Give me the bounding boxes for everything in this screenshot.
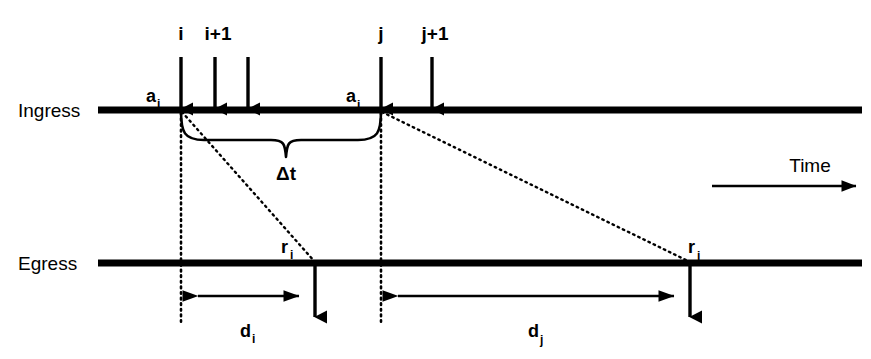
egress-axis-label: Egress [18, 253, 77, 274]
svg-text:j: j [696, 249, 700, 263]
departure-time-label-r-j: r j [688, 237, 700, 263]
ingress-axis-label: Ingress [18, 100, 80, 121]
timing-diagram: i i+1 j j+1 Ingress Egress a i a j r i r… [0, 0, 871, 359]
departure-time-label-r-i: r i [281, 237, 293, 262]
svg-text:i: i [290, 248, 293, 262]
packet-index-i: i [178, 23, 183, 44]
interarrival-label: Δt [276, 163, 297, 184]
packet-index-i-plus-1: i+1 [205, 23, 232, 44]
svg-text:i: i [157, 97, 160, 111]
service-line-j [382, 112, 690, 262]
packet-index-j: j [377, 23, 383, 44]
svg-text:a: a [346, 86, 357, 106]
svg-text:d: d [528, 321, 539, 341]
packet-index-j-plus-1: j+1 [421, 23, 449, 44]
svg-text:r: r [281, 237, 288, 257]
diagram-canvas: i i+1 j j+1 Ingress Egress a i a j r i r… [0, 0, 871, 359]
time-axis-label: Time [789, 155, 831, 176]
svg-text:j: j [539, 333, 543, 347]
svg-text:a: a [146, 86, 157, 106]
svg-text:d: d [240, 321, 251, 341]
service-line-i [182, 112, 315, 262]
svg-text:r: r [688, 237, 695, 257]
interarrival-brace [181, 111, 381, 157]
svg-text:j: j [356, 98, 360, 112]
svg-text:i: i [252, 332, 255, 346]
delay-label-d-i: d i [240, 321, 255, 346]
delay-label-d-j: d j [528, 321, 543, 347]
